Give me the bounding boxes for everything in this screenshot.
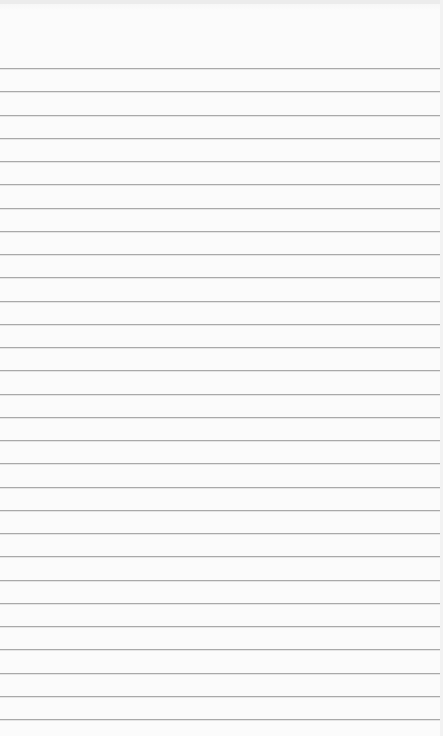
ruled-line <box>0 68 440 69</box>
ruled-line <box>0 301 440 302</box>
ruled-line <box>0 487 440 488</box>
ruled-line <box>0 394 440 395</box>
ruled-line <box>0 115 440 116</box>
ruled-line <box>0 254 440 255</box>
ruled-line <box>0 580 440 581</box>
ruled-line <box>0 347 440 348</box>
ruled-line <box>0 231 440 232</box>
ruled-line <box>0 719 440 720</box>
ruled-line <box>0 184 440 185</box>
ruled-line <box>0 673 440 674</box>
ruled-line <box>0 417 440 418</box>
ruled-line <box>0 510 440 511</box>
ruled-line <box>0 161 440 162</box>
ruled-line <box>0 138 440 139</box>
ruled-line <box>0 91 440 92</box>
ruled-line <box>0 626 440 627</box>
top-edge-strip <box>0 0 443 4</box>
ruled-line <box>0 696 440 697</box>
ruled-line <box>0 208 440 209</box>
ruled-line <box>0 533 440 534</box>
lined-paper-page <box>0 0 443 736</box>
ruled-line <box>0 556 440 557</box>
ruled-line <box>0 603 440 604</box>
ruled-line <box>0 277 440 278</box>
ruled-line <box>0 370 440 371</box>
ruled-line <box>0 324 440 325</box>
ruled-line <box>0 440 440 441</box>
ruled-line <box>0 463 440 464</box>
ruled-line <box>0 649 440 650</box>
